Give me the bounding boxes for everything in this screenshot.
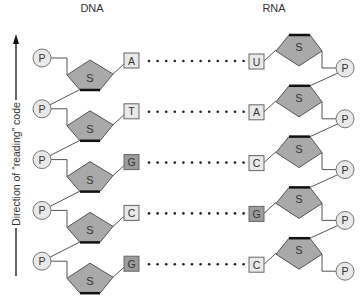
- sugar-label: S: [295, 92, 302, 104]
- glycosidic-bond: [264, 152, 276, 163]
- dna-rna-diagram: DNA RNA Direction of “reading” code SPAU…: [0, 0, 362, 304]
- sugar-label: S: [86, 123, 93, 135]
- rna-nucleotide: CSP: [249, 238, 354, 280]
- dna-base-label: G: [127, 258, 135, 270]
- glycosidic-bond: [113, 216, 124, 226]
- backbone-bond: [51, 58, 67, 75]
- dna-base-label: T: [128, 105, 135, 117]
- base-pair-dots: [148, 111, 245, 114]
- sugar-label: S: [295, 41, 302, 53]
- rna-header: RNA: [262, 2, 286, 14]
- phosphate-label: P: [38, 52, 45, 64]
- rna-base-label: A: [253, 106, 260, 118]
- backbone-bond: [322, 203, 336, 220]
- glycosidic-bond: [113, 267, 124, 277]
- backbone-bond: [51, 210, 67, 227]
- dna-base-label: A: [128, 55, 135, 67]
- sugar-label: S: [295, 244, 302, 256]
- base-pair-row: SPGCSP: [33, 238, 354, 293]
- phosphate-label: P: [341, 164, 348, 176]
- backbone-bond: [322, 102, 336, 119]
- glycosidic-bond: [264, 50, 276, 61]
- phosphate-label: P: [38, 204, 45, 216]
- backbone-bond: [310, 175, 338, 188]
- rna-nucleotide: USP: [249, 35, 354, 86]
- sugar-label: S: [295, 193, 302, 205]
- arrow-up-icon: [13, 34, 19, 44]
- glycosidic-bond: [113, 115, 124, 125]
- phosphate-label: P: [38, 255, 45, 267]
- dna-base-label: C: [128, 207, 136, 219]
- dna-nucleotide: SPC: [33, 201, 139, 257]
- rna-base-label: C: [253, 259, 261, 271]
- nucleotide-rows: SPAUSPSPTASPSPGCSPSPCGSPSPGCSP: [33, 35, 354, 293]
- backbone-bond: [50, 191, 81, 207]
- base-pair-dots: [148, 263, 245, 266]
- backbone-bond: [310, 225, 338, 238]
- rna-base-label: G: [252, 208, 260, 220]
- glycosidic-bond: [264, 253, 276, 264]
- rna-base-label: U: [253, 56, 261, 68]
- dna-nucleotide: SPT: [33, 100, 139, 156]
- backbone-bond: [51, 109, 67, 126]
- phosphate-label: P: [341, 265, 348, 277]
- reading-direction-axis: Direction of “reading” code: [10, 34, 22, 276]
- phosphate-label: P: [38, 154, 45, 166]
- phosphate-label: P: [341, 62, 348, 74]
- rna-base-label: C: [253, 157, 261, 169]
- sugar-label: S: [86, 174, 93, 186]
- base-pair-dots: [148, 161, 245, 164]
- dna-header: DNA: [80, 2, 104, 14]
- backbone-bond: [51, 261, 67, 278]
- phosphate-label: P: [341, 214, 348, 226]
- backbone-bond: [322, 51, 336, 68]
- backbone-bond: [50, 241, 81, 257]
- backbone-bond: [322, 153, 336, 170]
- phosphate-label: P: [341, 113, 348, 125]
- dna-base-label: G: [127, 156, 135, 168]
- base-pair-dots: [148, 60, 245, 63]
- phosphate-label: P: [38, 103, 45, 115]
- glycosidic-bond: [113, 166, 124, 176]
- dna-nucleotide: SPG: [33, 252, 139, 293]
- axis-label: Direction of “reading” code: [10, 102, 22, 226]
- backbone-bond: [51, 160, 67, 177]
- glycosidic-bond: [113, 64, 124, 74]
- sugar-label: S: [86, 275, 93, 287]
- backbone-bond: [50, 89, 81, 105]
- backbone-bond: [322, 254, 336, 271]
- glycosidic-bond: [264, 101, 276, 112]
- rna-nucleotide: CSP: [249, 137, 354, 188]
- base-pair-dots: [148, 212, 245, 215]
- dna-nucleotide: SPG: [33, 151, 139, 207]
- dna-nucleotide: SPA: [33, 49, 139, 105]
- rna-nucleotide: GSP: [249, 187, 354, 238]
- rna-nucleotide: ASP: [249, 86, 354, 137]
- glycosidic-bond: [264, 202, 276, 213]
- sugar-label: S: [295, 143, 302, 155]
- backbone-bond: [310, 124, 338, 137]
- sugar-label: S: [86, 72, 93, 84]
- backbone-bond: [50, 140, 81, 156]
- sugar-label: S: [86, 224, 93, 236]
- backbone-bond: [310, 73, 338, 86]
